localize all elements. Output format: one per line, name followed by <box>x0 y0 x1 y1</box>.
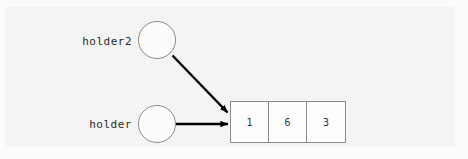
array-cell-1: 6 <box>269 102 307 142</box>
page-margin-top <box>0 0 468 7</box>
page-margin-left <box>0 0 6 159</box>
page-margin-bottom <box>0 147 468 159</box>
holder-label: holder <box>40 118 132 131</box>
holder2-label: holder2 <box>40 35 132 48</box>
diagram-canvas: holder2 holder 1 6 3 <box>0 0 468 159</box>
holder2-arrow <box>173 56 228 113</box>
array-cell-2: 3 <box>307 102 345 142</box>
holder-node-circle <box>138 105 176 143</box>
page-margin-right <box>455 0 468 159</box>
array-cell-0: 1 <box>231 102 269 142</box>
array-box: 1 6 3 <box>230 101 346 143</box>
holder2-node-circle <box>138 21 176 59</box>
